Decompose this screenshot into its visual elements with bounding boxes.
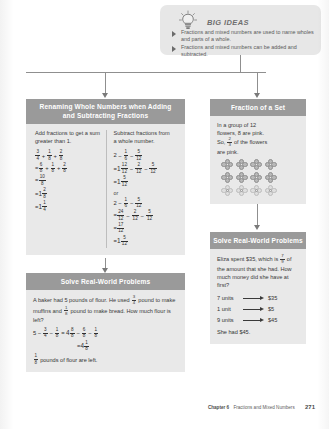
flower-icon	[265, 172, 278, 184]
panel-body: In a group of 12 flowers, 8 are pink. So…	[210, 116, 306, 204]
answer-text: pounds of flour are left.	[40, 357, 97, 363]
flower-icon	[221, 185, 234, 197]
problem-line-2: the amount that she had. How	[217, 266, 292, 272]
unit-label: 1 unit	[217, 304, 243, 315]
panel-heading: Renaming Whole Numbers when Adding and S…	[26, 99, 185, 124]
add-step: =68+18+28	[35, 163, 101, 174]
flower-icon	[236, 172, 249, 184]
renaming-add-column: Add fractions to get a sum greater than …	[32, 130, 106, 248]
big-ideas-bullet-text: Fractions and mixed numbers are used to …	[181, 29, 316, 43]
flower-icon	[221, 172, 234, 184]
panel-body: Eliza spent $35, which is 79 of the amou…	[210, 249, 306, 344]
flower-icon	[236, 185, 249, 197]
problem-line-3: much money did she have at first?	[217, 274, 289, 288]
problem-fraction-three-fourths: 34	[132, 295, 136, 306]
add-step: =114	[35, 201, 101, 213]
page-footer: Chapter 6 Fractions and Mixed Numbers 27…	[208, 404, 315, 410]
flower-icon	[265, 159, 278, 171]
problem-text: A baker had 5 pounds of flour. He used 3…	[33, 295, 178, 324]
connector-top-horizontal	[26, 72, 266, 73]
set-line-3b: of the flowers	[234, 139, 267, 145]
panel-renaming-whole-numbers: Renaming Whole Numbers when Adding and S…	[26, 99, 185, 255]
textbook-page: BIG IDEAS Fractions and mixed numbers ar…	[0, 0, 329, 429]
connector-right-arrow	[254, 93, 260, 98]
set-line-3a: So,	[217, 139, 225, 145]
subtract-alt-step: =1712	[114, 223, 175, 234]
unit-value: $5	[268, 304, 274, 315]
problem-line-2b: pound to make bread.	[70, 308, 124, 314]
big-ideas-bullet: Fractions and mixed numbers are used to …	[172, 29, 316, 43]
problem-line-1a: Eliza spent $35, which is	[217, 256, 278, 262]
set-line-3: So, 23 of the flowers	[217, 137, 299, 148]
flower-icon	[250, 185, 263, 197]
footer-chapter: Chapter 6	[208, 405, 229, 410]
subtract-step: =11212−212−512	[114, 163, 175, 175]
flower-set-diagram	[221, 159, 283, 197]
set-line-4: are pink.	[217, 148, 299, 156]
flower-icon	[265, 185, 278, 197]
problem-text: Eliza spent $35, which is 79 of the amou…	[217, 254, 299, 289]
add-lead-text: Add fractions to get a sum greater than …	[35, 130, 101, 145]
flower-icon	[250, 172, 263, 184]
add-step: =108	[35, 175, 101, 186]
big-ideas-bullet-text: Fractions and mixed numbers can be added…	[181, 44, 316, 58]
arrow-right-icon	[243, 307, 264, 311]
problem-fraction-one-eighth: 18	[64, 306, 68, 317]
set-line-1: In a group of 12	[217, 121, 299, 129]
problem-line-1a: A baker had 5 pounds of flour. He used	[33, 297, 130, 303]
flower-icon	[250, 159, 263, 171]
connector-left-arrow	[102, 93, 108, 98]
subtract-alt-step: 2−16−512	[114, 198, 175, 209]
solve-left-answer: 18 pounds of flour are left.	[33, 354, 178, 366]
big-ideas-callout: BIG IDEAS Fractions and mixed numbers ar…	[160, 5, 321, 55]
panel-heading-line2: and Subtracting Fractions	[63, 112, 148, 119]
subtract-step: 2−16−512	[114, 150, 175, 161]
flower-row	[221, 172, 283, 184]
arrow-right-icon	[243, 318, 264, 322]
panel-heading: Fraction of a Set	[210, 99, 306, 116]
flower-row	[221, 185, 283, 197]
subtract-step: =1512	[114, 176, 175, 188]
connector-solve-right-arrow	[254, 225, 260, 230]
add-step: =128	[35, 188, 101, 200]
renaming-subtract-column: Subtract fractions from a whole number. …	[106, 130, 180, 248]
panel-heading: Solve Real-World Problems	[26, 273, 185, 290]
solve-right-answer: She had $45.	[217, 327, 299, 338]
set-fraction-two-thirds: 23	[227, 137, 231, 148]
unit-label: 9 units	[217, 315, 243, 326]
panel-fraction-of-a-set: Fraction of a Set In a group of 12 flowe…	[210, 99, 306, 204]
unit-value: $35	[268, 293, 277, 304]
problem-line-1b: pound	[138, 297, 154, 303]
triangle-bullet-icon	[172, 31, 176, 37]
subtract-alt-step: =1512	[114, 235, 175, 247]
triangle-bullet-icon	[172, 46, 176, 52]
unit-value: $45	[268, 315, 277, 326]
add-step: 34+18+28	[35, 150, 101, 161]
answer-fraction: 18	[34, 354, 39, 365]
panel-heading: Solve Real-World Problems	[210, 232, 306, 249]
flower-row	[221, 159, 283, 171]
solve-left-work-step: 5−34−18=488−68−18	[33, 327, 178, 339]
panel-heading-line1: Renaming Whole Numbers when Adding	[40, 103, 172, 110]
problem-fraction-seven-ninths: 79	[280, 254, 284, 265]
flower-icon	[221, 159, 234, 171]
connector-left-stem	[105, 72, 106, 94]
subtract-lead-text: Subtract fractions from a whole number.	[114, 130, 175, 145]
panel-solve-real-world-right: Solve Real-World Problems Eliza spent $3…	[210, 232, 306, 344]
unit-row: 1 unit $5	[217, 304, 299, 315]
unit-label: 7 units	[217, 293, 243, 304]
unit-row: 9 units $45	[217, 315, 299, 326]
unit-row: 7 units $35	[217, 293, 299, 304]
footer-page-number: 271	[305, 404, 315, 410]
or-label: or	[114, 189, 175, 198]
panel-solve-real-world-left: Solve Real-World Problems A baker had 5 …	[26, 273, 185, 372]
subtract-alt-step: =2412−212−512	[114, 210, 175, 221]
big-ideas-title: BIG IDEAS	[207, 18, 249, 27]
solve-left-work-step: =418	[33, 340, 178, 352]
big-ideas-bullet: Fractions and mixed numbers can be added…	[172, 44, 316, 58]
panel-body: A baker had 5 pounds of flour. He used 3…	[26, 290, 185, 372]
flower-icon	[236, 159, 249, 171]
problem-line-1b: of	[287, 256, 292, 262]
connector-right-stem	[257, 72, 258, 94]
arrow-right-icon	[243, 296, 264, 300]
